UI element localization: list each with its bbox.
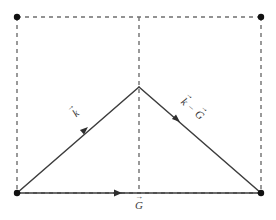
arrowhead-g-icon [114,190,122,197]
vertex-dot-bottom-left [14,190,20,196]
label-k-text: k [70,106,82,119]
label-k-minus-g: → k − → G [178,89,211,121]
label-k-minus-g-g-text: G [193,107,207,121]
vertex-dot-top-left [14,14,20,20]
label-k: → k [64,101,82,120]
vertex-dot-bottom-right [258,190,264,196]
vector-line-k-minus-g [139,87,261,193]
vertex-dot-top-right [258,14,264,20]
vector-line-k [17,87,139,193]
label-g-text: G [135,199,143,211]
vector-diagram-canvas: → k → k − → G → G [0,0,276,220]
vector-diagram-figure: → k → k − → G → G [0,0,276,220]
label-g: → G [135,192,143,212]
